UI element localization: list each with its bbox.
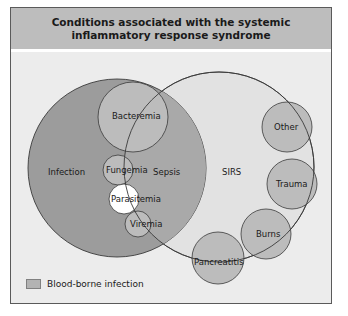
venn-diagram-content: Infection Sepsis SIRS Bacteremia Fungemi… bbox=[0, 0, 348, 316]
bacteremia-label: Bacteremia bbox=[112, 111, 161, 121]
burns-label: Burns bbox=[256, 229, 281, 239]
pancreatitis-label: Pancreatitis bbox=[194, 257, 244, 267]
legend: Blood-borne infection bbox=[26, 279, 144, 289]
infection-label: Infection bbox=[48, 167, 85, 177]
fungemia-label: Fungemia bbox=[106, 165, 148, 175]
legend-label-blood-borne: Blood-borne infection bbox=[47, 279, 144, 289]
trauma-label: Trauma bbox=[275, 179, 308, 189]
other-label: Other bbox=[274, 122, 299, 132]
legend-swatch-blood-borne bbox=[26, 279, 41, 289]
parasitemia-label: Parasitemia bbox=[111, 194, 161, 204]
sepsis-label: Sepsis bbox=[153, 167, 181, 177]
viremia-label: Viremia bbox=[130, 219, 162, 229]
sirs-label: SIRS bbox=[222, 167, 241, 177]
